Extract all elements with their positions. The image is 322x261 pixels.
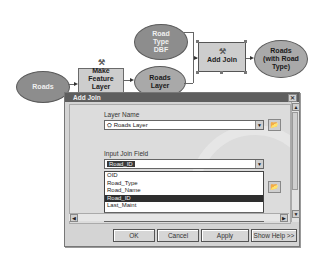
layer-icon: ⛭	[107, 122, 114, 128]
node-roads-with-road-type[interactable]: Roads (with Road Type)	[254, 40, 308, 78]
node-add-join[interactable]: ⚒ Add Join	[198, 42, 246, 72]
node-road-type-dbf[interactable]: Road Type DBF	[134, 24, 188, 60]
dropdown-option-road-id[interactable]: Road_ID	[105, 195, 263, 203]
arrow-icon	[130, 78, 134, 82]
node-roads[interactable]: Roads	[16, 71, 70, 103]
connector	[184, 32, 193, 33]
input-join-field-select[interactable]: Road_ID ▼	[104, 159, 264, 169]
layer-name-value: Roads Layer	[114, 122, 148, 128]
add-join-dialog: Add Join ✕ Layer Name ⛭ Roads Layer ▼ 📂 …	[64, 92, 300, 247]
browse-folder-button-2[interactable]: 📂	[268, 181, 281, 193]
join-field-dropdown-list[interactable]: OID Road_Type Road_Name Road_ID Last_Mai…	[104, 171, 264, 213]
selection-handle[interactable]	[196, 40, 199, 43]
node-label: Roads (with Road Type)	[263, 47, 299, 71]
node-label: Road Type DBF	[146, 30, 176, 54]
input-join-field-label: Input Join Field	[104, 150, 148, 157]
vertical-scrollbar[interactable]: ▲ ▼	[291, 102, 299, 222]
scroll-thumb[interactable]	[292, 112, 298, 190]
dropdown-option-last-maint[interactable]: Last_Maint	[105, 202, 263, 210]
browse-folder-button[interactable]: 📂	[268, 119, 281, 131]
connector	[184, 83, 193, 84]
ok-button[interactable]: OK	[113, 229, 155, 242]
arrow-icon	[74, 82, 78, 86]
parameters-panel: Layer Name ⛭ Roads Layer ▼ 📂 Input Join …	[69, 104, 291, 224]
dialog-title: Add Join	[73, 94, 101, 101]
dropdown-option-oid[interactable]: OID	[105, 172, 263, 180]
horizontal-scrollbar[interactable]: ◀ ▶	[69, 213, 289, 221]
node-label: Make Feature Layer	[79, 67, 123, 91]
selection-handle[interactable]	[196, 71, 199, 74]
dropdown-option-road-type[interactable]: Road_Type	[105, 180, 263, 188]
layer-name-select[interactable]: ⛭ Roads Layer ▼	[104, 120, 264, 130]
selection-handle[interactable]	[244, 40, 247, 43]
show-help-button[interactable]: Show Help >>	[251, 229, 297, 242]
chevron-down-icon[interactable]: ▼	[255, 160, 263, 168]
hammer-icon: ⚒	[219, 48, 226, 56]
chevron-down-icon[interactable]: ▼	[255, 121, 263, 129]
scroll-down-icon[interactable]: ▼	[292, 210, 300, 218]
scroll-right-icon[interactable]: ▶	[280, 214, 288, 222]
node-make-feature-layer[interactable]: ⚒ Make Feature Layer	[78, 68, 124, 94]
dialog-titlebar[interactable]: Add Join ✕	[65, 93, 299, 102]
node-label: Add Join	[207, 56, 237, 64]
hammer-icon: ⚒	[98, 59, 105, 67]
selection-handle[interactable]	[244, 71, 247, 74]
arrow-icon	[250, 56, 254, 60]
arrow-icon	[194, 56, 198, 60]
dropdown-option-road-name[interactable]: Road_Name	[105, 187, 263, 195]
scroll-up-icon[interactable]: ▲	[292, 103, 300, 111]
layer-name-label: Layer Name	[104, 111, 139, 118]
cancel-button[interactable]: Cancel	[157, 229, 199, 242]
scroll-left-icon[interactable]: ◀	[70, 214, 78, 222]
input-join-field-value: Road_ID	[107, 161, 135, 167]
node-label: Roads Layer	[146, 74, 174, 90]
node-label: Roads	[32, 83, 53, 91]
apply-button[interactable]: Apply	[201, 229, 249, 242]
close-icon[interactable]: ✕	[288, 94, 297, 102]
selection-handle[interactable]	[220, 71, 223, 74]
